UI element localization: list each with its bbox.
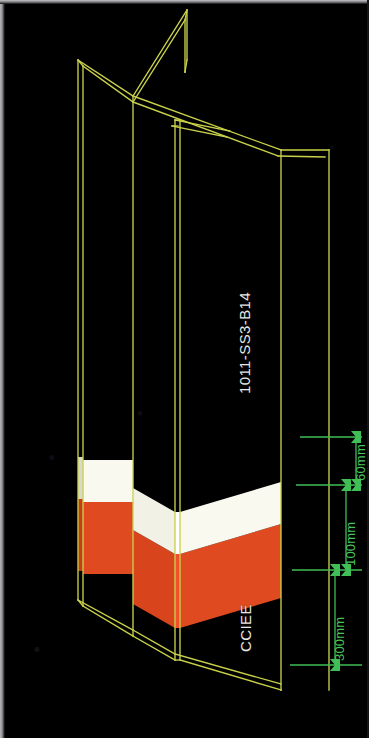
dimension-label-300mm: 300mm	[332, 617, 347, 661]
member-mark-label: 1011-SS3-B14	[236, 292, 253, 394]
white-band-web-edge	[175, 512, 180, 554]
scan-edge-left	[0, 0, 5, 738]
dimension-label-60mm: 60mm	[353, 444, 368, 481]
background	[0, 0, 369, 738]
owner-mark-label: CCIEE	[237, 604, 254, 652]
dimension-label-100mm: 100mm	[343, 522, 358, 566]
scan-edge-top	[0, 0, 369, 4]
drawing-canvas: 1011-SS3-B14 CCIEE 60mm 100mm 300mm	[0, 0, 369, 738]
isometric-column-drawing	[0, 0, 369, 738]
orange-band-web-edge	[175, 554, 180, 628]
